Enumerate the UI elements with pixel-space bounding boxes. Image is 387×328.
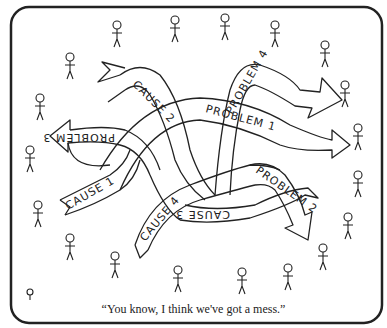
stick-figure xyxy=(220,14,230,40)
stick-figure xyxy=(173,266,183,292)
arrow-cause-2 xyxy=(98,62,215,200)
stick-figure xyxy=(112,21,122,47)
stick-figure xyxy=(340,81,350,107)
stick-figures xyxy=(25,14,363,300)
stick-figure xyxy=(27,289,33,300)
cartoon-caption: “You know, I think we've got a mess.” xyxy=(0,302,387,317)
stick-figure xyxy=(110,252,120,278)
svg-text:CAUSE 1: CAUSE 1 xyxy=(63,174,117,213)
stick-figure xyxy=(237,268,247,294)
stick-figure xyxy=(35,94,45,120)
stick-figure xyxy=(65,53,75,79)
svg-text:PROBLEM 3: PROBLEM 3 xyxy=(42,131,115,144)
stick-figure xyxy=(353,171,363,197)
arrow-labels: CAUSE 2 PROBLEM 4 PROBLEM 1 PROBLEM 3 CA… xyxy=(42,47,320,244)
stick-figure xyxy=(25,146,35,172)
stick-figure xyxy=(33,201,43,227)
stick-figure xyxy=(343,213,353,239)
stick-figure xyxy=(353,124,363,150)
stick-figure xyxy=(270,21,280,47)
stick-figure xyxy=(283,264,293,290)
stick-figure xyxy=(65,234,75,260)
stick-figure xyxy=(320,41,330,67)
svg-text:CAUSE 2: CAUSE 2 xyxy=(130,78,178,126)
stick-figure xyxy=(318,244,328,270)
cartoon-drawing: CAUSE 2 PROBLEM 4 PROBLEM 1 PROBLEM 3 CA… xyxy=(0,0,387,328)
stick-figure xyxy=(170,16,180,42)
svg-text:CAUSE 3: CAUSE 3 xyxy=(175,208,230,221)
